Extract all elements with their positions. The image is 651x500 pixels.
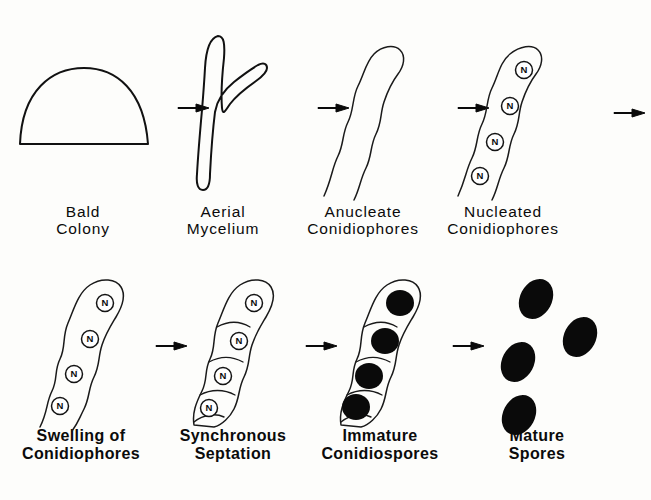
immature-spore-group: [342, 290, 414, 420]
caption-line: Spores: [462, 445, 612, 463]
caption-line: Nucleated: [428, 203, 578, 220]
stage-synchronous-septation: N N N N Synchronous Septation: [158, 262, 308, 463]
stage-immature-conidiospores: Immature Conidiospores: [305, 262, 455, 463]
arrow-4: [613, 105, 647, 121]
anucleate-conidiophore-illustration: [288, 28, 438, 203]
nucleus-label: N: [102, 297, 109, 308]
nucleus-group: N N N N: [52, 295, 114, 415]
caption-line: Bald: [8, 203, 158, 220]
nucleus-label: N: [492, 136, 499, 147]
septate-conidiophore-illustration: N N N N: [158, 262, 308, 427]
caption-line: Conidiophores: [428, 220, 578, 237]
caption-line: Septation: [158, 445, 308, 463]
caption-line: Mycelium: [148, 220, 298, 237]
caption-line: Aerial: [148, 203, 298, 220]
nucleus-label: N: [251, 297, 258, 308]
swelling-conidiophore-illustration: N N N N: [6, 262, 156, 427]
nucleated-conidiophore-illustration: N N N N: [428, 28, 578, 203]
nucleus-label: N: [87, 333, 94, 344]
conidiophore-development-figure: Bald Colony Aerial Mycelium: [0, 0, 651, 500]
caption-anucleate-conidiophores: Anucleate Conidiophores: [288, 203, 438, 238]
nucleus-label: N: [507, 100, 514, 111]
stage-aerial-mycelium: Aerial Mycelium: [148, 28, 298, 238]
nucleus-label: N: [57, 400, 64, 411]
bald-colony-illustration: [8, 28, 158, 203]
nucleus-label: N: [236, 335, 243, 346]
caption-line: Anucleate: [288, 203, 438, 220]
nucleus-group: N N N N: [201, 295, 263, 417]
mature-spores-illustration: [462, 262, 612, 427]
caption-aerial-mycelium: Aerial Mycelium: [148, 203, 298, 238]
stage-mature-spores: Mature Spores: [462, 262, 612, 463]
caption-line: Colony: [8, 220, 158, 237]
mature-spore-group: [494, 273, 604, 441]
stage-anucleate-conidiophores: Anucleate Conidiophores: [288, 28, 438, 238]
stage-nucleated-conidiophores: N N N N Nucleated Conidiophores: [428, 28, 578, 238]
nucleus-label: N: [477, 170, 484, 181]
stage-bald-colony: Bald Colony: [8, 28, 158, 238]
nucleus-label: N: [206, 402, 213, 413]
immature-conidiospore-illustration: [305, 262, 455, 427]
aerial-mycelium-illustration: [148, 28, 298, 203]
caption-line: Conidiophores: [6, 445, 156, 463]
caption-nucleated-conidiophores: Nucleated Conidiophores: [428, 203, 578, 238]
nucleus-label: N: [71, 368, 78, 379]
stage-swelling-of-conidiophores: N N N N Swelling of Conidiophores: [6, 262, 156, 463]
caption-bald-colony: Bald Colony: [8, 203, 158, 238]
caption-line: Conidiophores: [288, 220, 438, 237]
nucleus-label: N: [220, 370, 227, 381]
nucleus-label: N: [521, 64, 528, 75]
caption-line: Conidiospores: [305, 445, 455, 463]
nucleus-group: N N N N: [472, 62, 533, 185]
